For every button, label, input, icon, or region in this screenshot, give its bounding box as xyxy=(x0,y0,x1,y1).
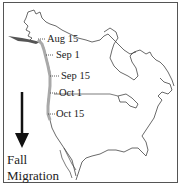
gulf-coast-outline xyxy=(76,150,108,180)
hudson-bay-outline xyxy=(104,28,174,86)
date-label-sep15: Sep 15 xyxy=(61,71,90,82)
down-arrow-icon xyxy=(15,133,29,148)
date-label-sep1: Sep 1 xyxy=(56,50,80,61)
breeding-range-wedge xyxy=(8,36,40,44)
date-label-oct1: Oct 1 xyxy=(59,88,82,99)
migration-route xyxy=(38,40,50,120)
alaska-west-coast xyxy=(24,12,32,40)
legend-line-1: Fall xyxy=(7,152,59,168)
baja-outline xyxy=(60,148,76,178)
east-coast-outline xyxy=(108,100,162,156)
great-lakes-outline xyxy=(118,94,138,108)
date-label-oct15: Oct 15 xyxy=(56,109,84,120)
date-label-aug15: Aug 15 xyxy=(47,34,78,45)
labrador-outline xyxy=(158,78,172,100)
legend-line-2: Migration xyxy=(7,168,59,184)
legend-label: Fall Migration xyxy=(7,152,59,183)
